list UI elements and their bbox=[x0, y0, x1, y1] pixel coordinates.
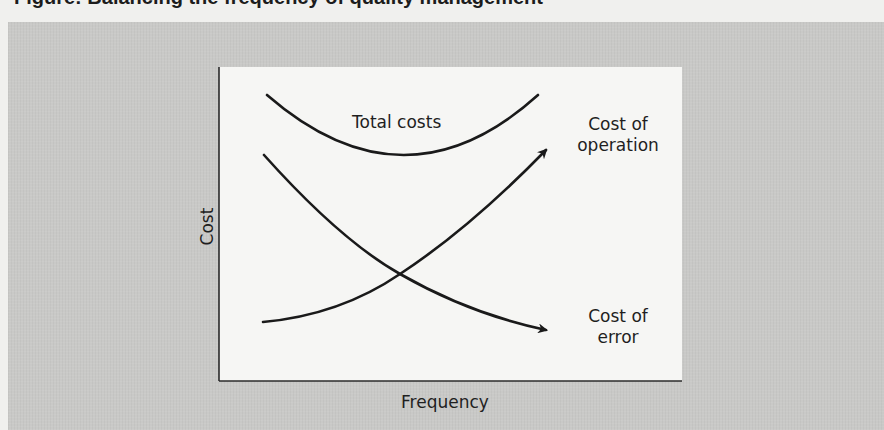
cost-of-operation-label-line2: operation bbox=[566, 135, 670, 156]
cost-of-error-label: Cost of error bbox=[570, 306, 666, 348]
y-axis-label: Cost bbox=[197, 202, 218, 252]
cost-of-error-label-line1: Cost of bbox=[570, 306, 666, 327]
total-costs-label: Total costs bbox=[352, 112, 441, 133]
cost-of-operation-label-line1: Cost of bbox=[566, 114, 670, 135]
page: Figure: Balancing the frequency of quali… bbox=[0, 0, 884, 430]
cost-of-error-curve bbox=[264, 155, 546, 330]
x-axis-label: Frequency bbox=[400, 392, 490, 413]
cost-of-error-label-line2: error bbox=[570, 327, 666, 348]
cost-of-operation-curve bbox=[263, 150, 546, 322]
cost-of-operation-label: Cost of operation bbox=[566, 114, 670, 156]
chart-graphics bbox=[0, 0, 884, 430]
